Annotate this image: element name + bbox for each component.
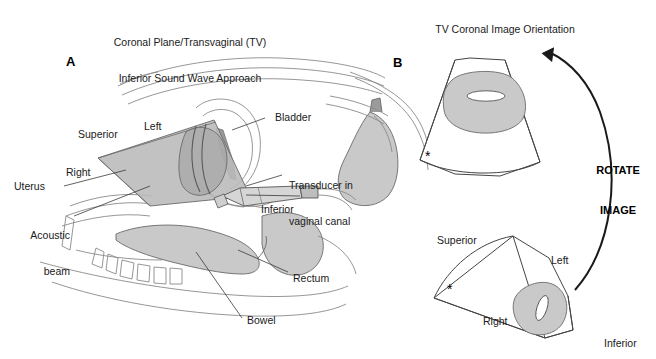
- lower-body-contour-2: [52, 282, 346, 316]
- upper-fan-uterus: [443, 71, 525, 133]
- upper-fan-endometrium: [467, 91, 505, 101]
- label-bowel: Bowel: [247, 314, 276, 326]
- vertebra-3: [120, 260, 134, 279]
- label-transducer: Transducer in vaginal canal: [289, 155, 353, 252]
- panel-b-title: TV Coronal Image Orientation: [395, 23, 615, 35]
- label-acoustic-beam-line2: beam: [12, 265, 70, 277]
- label-left-b: Left: [551, 254, 569, 266]
- marker-asterisk-a: *: [101, 141, 108, 160]
- pelvic-arc-3: [62, 215, 150, 226]
- label-transducer-line1: Transducer in: [289, 179, 353, 191]
- rotate-image-line2: IMAGE: [586, 204, 650, 217]
- vertebra-6: [170, 268, 182, 284]
- label-inferior-b: Inferior: [604, 337, 637, 349]
- vertebra-4: [137, 264, 150, 282]
- label-superior-b: Superior: [437, 234, 477, 246]
- label-right-b: Right: [483, 315, 508, 327]
- vertebra-1: [92, 248, 104, 268]
- panel-b-letter: B: [393, 56, 402, 71]
- label-left-a: Left: [144, 120, 162, 132]
- label-transducer-line2: vaginal canal: [289, 215, 353, 227]
- label-inferior-a: Inferior: [261, 203, 294, 215]
- label-rectum: Rectum: [293, 272, 329, 284]
- rotate-arrow-head: [543, 45, 559, 61]
- label-superior-a: Superior: [78, 128, 118, 140]
- panel-a-title-line1: Coronal Plane/Transvaginal (TV): [70, 36, 310, 48]
- panel-b-upper-fan: [420, 58, 540, 176]
- panel-a-title-line2: Inferior Sound Wave Approach: [70, 72, 310, 84]
- marker-asterisk-b-upper: *: [425, 149, 430, 163]
- label-right-a: Right: [66, 166, 91, 178]
- rotate-image-line1: ROTATE: [586, 164, 650, 177]
- vertebra-5: [154, 267, 166, 284]
- label-acoustic-beam-line1: Acoustic: [12, 229, 70, 241]
- label-acoustic-beam: Acoustic beam: [12, 205, 70, 302]
- marker-asterisk-b-lower: *: [447, 282, 452, 296]
- panel-a-letter: A: [66, 55, 75, 70]
- panel-a-title: Coronal Plane/Transvaginal (TV) Inferior…: [70, 12, 310, 109]
- figure-container: Coronal Plane/Transvaginal (TV) Inferior…: [0, 0, 656, 359]
- label-bladder: Bladder: [275, 111, 311, 123]
- label-uterus: Uterus: [14, 180, 45, 192]
- rotate-image-label: ROTATE IMAGE: [586, 138, 650, 244]
